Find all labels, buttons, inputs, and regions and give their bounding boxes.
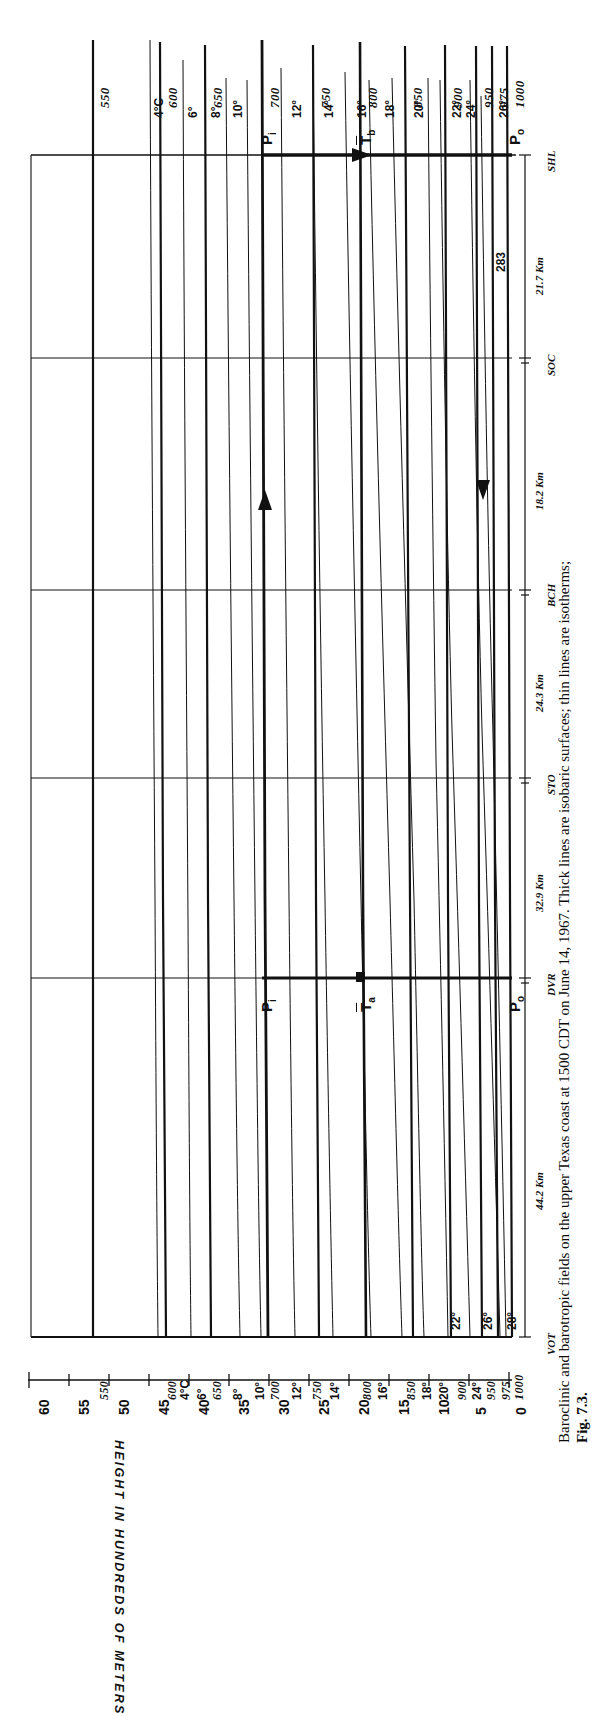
isobar-label-550-top: 550 bbox=[97, 87, 113, 108]
axis-tick-50: 50 bbox=[116, 1399, 132, 1415]
ta-marker-line bbox=[262, 972, 512, 982]
isotherm-label-10-bot: 10° bbox=[253, 1382, 267, 1400]
isotherm-label-10-top: 10° bbox=[231, 100, 245, 118]
axis-tick-25: 25 bbox=[316, 1399, 332, 1415]
isobar-label-600-top: 600 bbox=[165, 87, 181, 108]
figure-caption: Fig. 7.3. Baroclinic and barotropic fiel… bbox=[530, 0, 592, 1449]
isobar-label-700-bot: 700 bbox=[268, 1381, 283, 1400]
isobar-label-550-bot: 550 bbox=[97, 1381, 112, 1400]
axis-tick-60: 60 bbox=[36, 1399, 52, 1415]
isotherm-label-24-bot: 24° bbox=[470, 1382, 484, 1400]
marker-po-shl: Po bbox=[506, 129, 526, 145]
tb-arrow bbox=[262, 148, 512, 162]
annotation-283: 283 bbox=[494, 252, 508, 272]
isobar-label-950-bot: 950 bbox=[484, 1381, 499, 1400]
axis-tick-55: 55 bbox=[76, 1399, 92, 1415]
isobar-label-700-top: 700 bbox=[267, 87, 283, 108]
marker-tb-shl: Tb bbox=[357, 130, 377, 145]
isobar-label-650-top: 650 bbox=[210, 87, 226, 108]
isotherm-label-22-top: 22° bbox=[450, 100, 464, 118]
isotherm-label-12-top: 12° bbox=[290, 100, 304, 118]
isotherm-label-26-top: 26° bbox=[497, 100, 511, 118]
axis-tick-40: 40 bbox=[196, 1399, 212, 1415]
marker-po-dvr: Po bbox=[506, 996, 526, 1012]
axis-tick-20: 20 bbox=[356, 1399, 372, 1415]
plot-frame bbox=[31, 155, 512, 1337]
isobar-label-850-bot: 850 bbox=[404, 1381, 419, 1400]
isobar-label-1000-top: 1000 bbox=[512, 80, 528, 108]
isotherm-label-18-bot: 18° bbox=[420, 1382, 434, 1400]
axis-tick-45: 45 bbox=[156, 1399, 172, 1415]
marker-pi-dvr: Pi bbox=[258, 999, 278, 1012]
isotherm-label-4c-top: 4°C bbox=[152, 98, 166, 118]
axis-tick-35: 35 bbox=[236, 1399, 252, 1415]
isotherm-label-16-bot: 16° bbox=[376, 1382, 390, 1400]
isotherm-label-6-top: 6° bbox=[186, 107, 200, 118]
isobar-label-800-top: 800 bbox=[365, 87, 381, 108]
axis-tick-0: 0 bbox=[513, 1407, 529, 1415]
isotherm-label-20-bot: 20° bbox=[437, 1382, 451, 1400]
isotherm-label-12-bot: 12° bbox=[290, 1382, 304, 1400]
marker-pi-shl: Pi bbox=[258, 132, 278, 145]
isobar-lines bbox=[93, 40, 512, 1337]
axis-tick-5: 5 bbox=[473, 1407, 489, 1415]
isobar-label-950-top: 950 bbox=[481, 87, 497, 108]
marker-ta-dvr: Ta bbox=[357, 997, 377, 1012]
isotherm-label-8-top: 8° bbox=[209, 107, 223, 118]
isotherm-label-4c-bot: 4°C bbox=[178, 1380, 192, 1400]
axis-tick-15: 15 bbox=[396, 1399, 412, 1415]
isobar-label-1000-bot: 1000 bbox=[512, 1374, 527, 1400]
isobar-label-750-bot: 750 bbox=[310, 1381, 325, 1400]
isotherm-label-24-top: 24° bbox=[464, 100, 478, 118]
isotherm-label-22-bot2: 22° bbox=[449, 1312, 463, 1330]
isotherm-label-14-top: 14° bbox=[322, 100, 336, 118]
isotherm-label-20-top: 20° bbox=[412, 100, 426, 118]
caption-text: Baroclinic and barotropic fields on the … bbox=[556, 561, 573, 1443]
axis-title: HEIGHT IN HUNDREDS OF METERS bbox=[112, 1440, 126, 1716]
isotherm-label-28-bot2: 28° bbox=[505, 1312, 519, 1330]
isotherm-label-14-bot: 14° bbox=[328, 1382, 342, 1400]
pi-arrow bbox=[258, 490, 272, 510]
isotherm-label-18-top: 18° bbox=[383, 100, 397, 118]
isobar-label-650-bot: 650 bbox=[210, 1381, 225, 1400]
caption-figure-number: Fig. 7.3. bbox=[574, 1392, 591, 1443]
isobar-label-800-bot: 800 bbox=[360, 1381, 375, 1400]
isotherm-label-26-bot2: 26° bbox=[481, 1312, 495, 1330]
isobar-label-900-bot: 900 bbox=[455, 1381, 470, 1400]
axis-tick-10: 10 bbox=[436, 1399, 452, 1415]
isotherm-lines bbox=[150, 40, 506, 1337]
axis-tick-30: 30 bbox=[276, 1399, 292, 1415]
